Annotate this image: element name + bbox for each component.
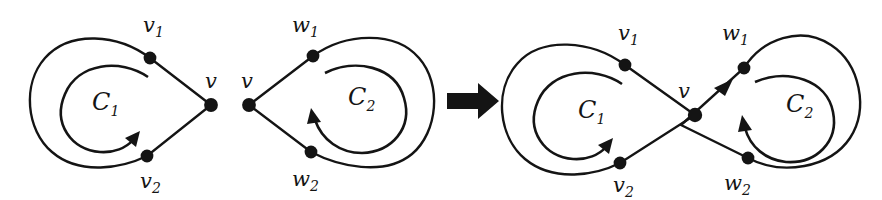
vertex-dot-w2: [305, 146, 318, 159]
merged-vertex-label-w1: w1: [722, 21, 749, 48]
vertex-label-w1: w1: [292, 13, 319, 40]
merged-c2-loop: [681, 36, 860, 168]
merged-vertex-label-w2: w2: [724, 171, 751, 198]
cycle-c2-orientation-arrowhead: [307, 108, 321, 124]
vertex-label-v-second: v: [241, 69, 253, 93]
transformation-arrow: [447, 83, 499, 119]
merged-cycle-label-c2: C2: [786, 90, 813, 121]
cycle-label-c2: C2: [348, 83, 375, 114]
vertex-dot-v2: [141, 150, 154, 163]
merged-vertex-dot-w2: [742, 152, 755, 165]
merged-vertex-dot-v: [688, 108, 702, 122]
figure-canvas: v1 v2 v C1 w1 w2 v: [0, 0, 882, 200]
merged-c1-loop: [502, 45, 695, 175]
cycle-merge-figure: v1 v2 v C1 w1 w2 v: [0, 0, 882, 200]
merged-vertex-label-v: v: [678, 79, 690, 103]
panel-merged-figure-eight: v1 v2 w1 w2 v C1 C2: [502, 21, 860, 200]
vertex-label-v1: v1: [143, 13, 164, 40]
merged-vertex-dot-v2: [614, 157, 627, 170]
vertex-label-w2: w2: [292, 167, 319, 194]
vertex-dot-v-second: [242, 98, 256, 112]
merged-vertex-dot-w1: [738, 62, 751, 75]
cycle-label-c1: C1: [92, 88, 119, 119]
vertex-dot-v1: [144, 52, 157, 65]
merged-cycle-label-c1: C1: [578, 96, 605, 127]
transform-arrow-glyph: [447, 83, 499, 119]
merged-vertex-dot-v1: [619, 59, 632, 72]
panel-cycle-c1: v1 v2 v C1: [30, 13, 218, 196]
merged-c2-orientation-arrowhead: [738, 115, 752, 132]
panel-cycle-c2: w1 w2 v C2: [241, 13, 434, 194]
merged-vertex-label-v1: v1: [618, 21, 639, 48]
vertex-label-v: v: [205, 69, 217, 93]
vertex-dot-w1: [307, 50, 320, 63]
merged-vertex-label-v2: v2: [613, 173, 634, 200]
vertex-label-v2: v2: [140, 169, 161, 196]
vertex-dot-v: [204, 98, 218, 112]
